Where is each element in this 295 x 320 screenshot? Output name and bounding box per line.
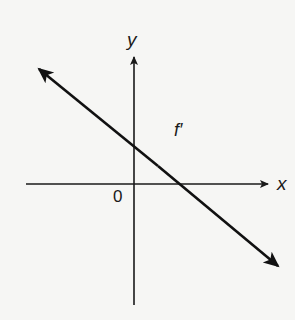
graph-canvas: y x 0 f′: [0, 0, 295, 320]
y-axis-label: y: [127, 30, 137, 49]
curve-label-f-prime: f′: [174, 121, 182, 139]
x-axis-label: x: [277, 174, 287, 193]
f-prime-line: [158, 166, 278, 266]
origin-label: 0: [113, 188, 122, 205]
f-prime-line-upper: [39, 69, 158, 166]
graph-svg: [0, 0, 295, 320]
